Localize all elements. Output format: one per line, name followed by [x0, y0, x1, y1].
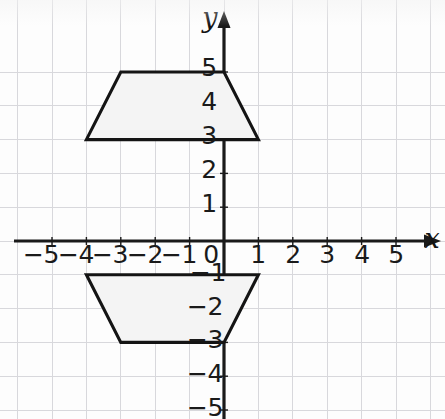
x-tick-label-5: 5 — [388, 242, 403, 267]
coordinate-plane-figure: −5 −4 −3 −2 −1 0 1 2 3 4 5 5 4 3 2 1 −1 … — [0, 0, 445, 419]
x-tick-label-2: 2 — [285, 242, 300, 267]
y-tick-label--3: −3 — [187, 327, 223, 352]
y-tick-label--1: −1 — [190, 260, 226, 285]
x-axis-label: x — [424, 225, 439, 252]
y-tick-label--5: −5 — [187, 395, 223, 419]
y-tick-label-4: 4 — [201, 89, 216, 114]
lower-trapezoid — [86, 275, 258, 343]
x-tick-label--3: −3 — [92, 242, 128, 267]
x-tick-label--5: −5 — [23, 242, 59, 267]
y-tick-label-5: 5 — [201, 55, 216, 80]
y-axis-label: y — [202, 4, 217, 31]
x-tick-label-4: 4 — [354, 242, 369, 267]
x-tick-label-3: 3 — [319, 242, 334, 267]
y-tick-label-1: 1 — [201, 191, 216, 216]
y-tick-label--4: −4 — [187, 361, 223, 386]
y-tick-label--2: −2 — [187, 294, 223, 319]
x-tick-label-1: 1 — [250, 242, 265, 267]
x-tick-label--4: −4 — [58, 242, 94, 267]
upper-trapezoid — [86, 72, 258, 140]
x-tick-label--2: −2 — [127, 242, 163, 267]
y-axis-arrowhead — [218, 11, 231, 28]
plot-canvas — [0, 0, 445, 419]
y-tick-label-3: 3 — [201, 123, 216, 148]
y-tick-label-2: 2 — [201, 157, 216, 182]
